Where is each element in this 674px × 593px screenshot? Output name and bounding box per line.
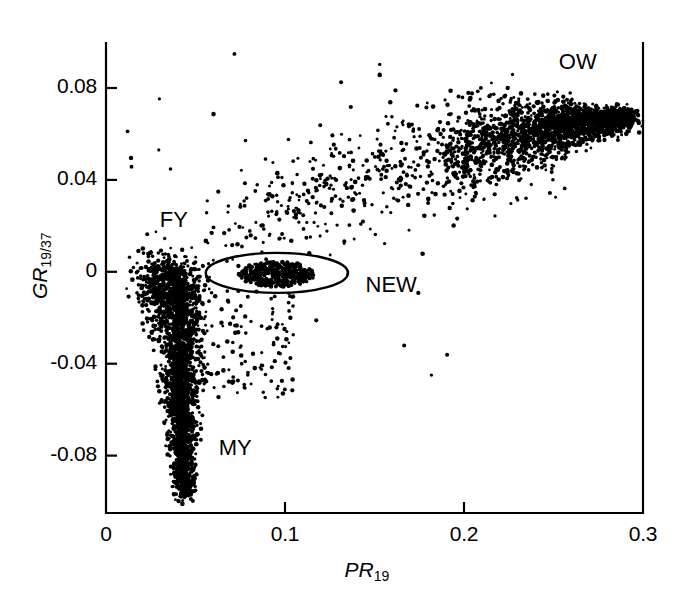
annotation-my: MY xyxy=(219,435,252,461)
annotation-fy: FY xyxy=(160,207,188,233)
x-tick-label-1: 0.1 xyxy=(245,522,325,546)
scatter-plot-figure: 0.08 0.04 0 -0.04 -0.08 0 0.1 0.2 0.3 PR… xyxy=(0,0,674,593)
y-axis-title: GR19/37 xyxy=(28,233,52,300)
plot-canvas xyxy=(0,0,674,593)
y-axis-title-sub: 19/37 xyxy=(38,233,54,268)
y-tick-label-4: -0.08 xyxy=(7,442,97,466)
annotation-ow: OW xyxy=(559,49,597,75)
x-tick-label-0: 0 xyxy=(66,522,146,546)
y-axis-title-main: GR xyxy=(28,268,51,300)
y-tick-label-3: -0.04 xyxy=(7,350,97,374)
annotation-new: NEW xyxy=(366,272,417,298)
x-tick-label-2: 0.2 xyxy=(424,522,504,546)
y-tick-label-1: 0.04 xyxy=(7,166,97,190)
x-tick-label-3: 0.3 xyxy=(603,522,674,546)
y-tick-label-0: 0.08 xyxy=(7,74,97,98)
x-axis-title-sub: 19 xyxy=(374,568,390,584)
x-axis-title-main: PR xyxy=(345,558,374,581)
x-axis-title: PR19 xyxy=(345,558,390,582)
